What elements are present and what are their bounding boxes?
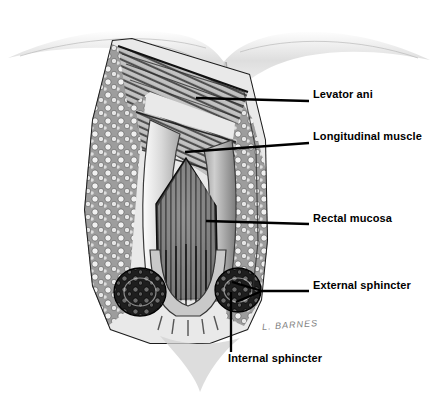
label-external-sphincter: External sphincter <box>313 279 411 291</box>
label-longitudinal-muscle: Longitudinal muscle <box>313 130 422 142</box>
label-internal-sphincter: Internal sphincter <box>228 352 322 364</box>
anatomy-drawing <box>0 0 444 400</box>
external-sphincter-left <box>114 268 166 316</box>
label-rectal-mucosa: Rectal mucosa <box>313 212 392 224</box>
illustration-canvas: Levator ani Longitudinal muscle Rectal m… <box>0 0 444 400</box>
label-levator-ani: Levator ani <box>313 88 373 100</box>
